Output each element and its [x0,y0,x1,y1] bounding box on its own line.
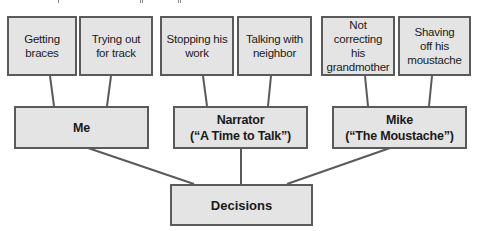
leaf-label: Talking with neighbor [246,32,303,60]
leaf-label: Not correcting his grandmother [325,18,391,74]
connector-braces-me [50,76,54,106]
connector-moustache-mike [429,76,432,106]
leaf-label: Shaving off his moustache [407,25,461,67]
root-label: Decisions [211,198,272,213]
leaf-box-talking-with-neighbor: Talking with neighbor [237,16,312,76]
root-box-decisions: Decisions [170,184,313,226]
decision-tree-diagram: Getting braces Trying out for track Stop… [0,0,477,231]
middle-box-narrator: Narrator (“A Time to Talk”) [173,106,308,149]
leaf-box-trying-out-for-track: Trying out for track [79,16,153,76]
middle-label: Narrator (“A Time to Talk”) [190,112,291,144]
leaf-label: Stopping his work [167,32,228,60]
leaf-box-shaving-moustache: Shaving off his moustache [398,16,471,76]
leaf-box-stopping-his-work: Stopping his work [160,16,234,76]
connector-grandmother-mike [365,76,368,106]
connector-me-decisions [88,148,194,184]
middle-label: Me [73,120,90,136]
connector-stopping-narrator [203,76,207,106]
leaf-label: Trying out for track [92,32,141,60]
connector-mike-decisions [287,148,390,184]
leaf-box-not-correcting-grandmother: Not correcting his grandmother [321,16,395,76]
middle-box-mike: Mike (“The Moustache”) [332,106,467,149]
middle-box-me: Me [14,106,149,149]
leaf-box-getting-braces: Getting braces [7,16,77,76]
connector-talking-narrator [268,76,271,106]
leaf-label: Getting braces [24,32,60,60]
middle-label: Mike (“The Moustache”) [345,112,453,144]
connector-track-me [107,76,111,106]
